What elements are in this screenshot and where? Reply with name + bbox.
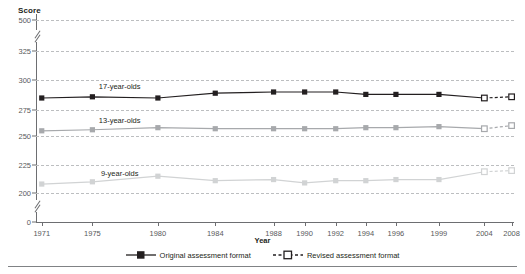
x-tick-label: 1996 <box>388 229 405 238</box>
legend-item[interactable]: Revised assessment format <box>273 250 400 260</box>
series-17-year-olds <box>39 89 514 100</box>
data-point-original <box>436 124 441 129</box>
data-point-original <box>213 91 218 96</box>
line-original <box>42 92 485 98</box>
x-tick-mark <box>484 222 485 226</box>
data-point-original <box>213 126 218 131</box>
x-tick-mark <box>439 222 440 226</box>
data-point-original <box>271 89 276 94</box>
chart-container: Score Year 5003253002752502252000 197119… <box>0 0 525 274</box>
data-point-original <box>363 92 368 97</box>
data-point-revised <box>482 95 488 101</box>
x-tick-mark <box>366 222 367 226</box>
series-label-13-year-olds: 13-year-olds <box>99 115 141 124</box>
data-point-original <box>393 125 398 130</box>
data-point-original <box>436 92 441 97</box>
y-tick-label: 0 <box>27 218 31 227</box>
data-point-original <box>363 125 368 130</box>
data-point-original <box>39 181 44 186</box>
data-point-original <box>333 126 338 131</box>
legend-dashed-icon <box>273 250 303 260</box>
data-point-original <box>155 95 160 100</box>
x-tick-label: 1992 <box>327 229 344 238</box>
data-point-original <box>90 179 95 184</box>
x-tick-mark <box>42 222 43 226</box>
x-tick-label: 1990 <box>296 229 313 238</box>
data-point-revised <box>509 94 515 100</box>
x-tick-label: 1971 <box>33 229 50 238</box>
series-label-17-year-olds: 17-year-olds <box>99 82 141 91</box>
x-tick-label: 1975 <box>84 229 101 238</box>
y-tick-label: 250 <box>18 132 31 141</box>
x-tick-label: 1984 <box>207 229 224 238</box>
x-tick-mark <box>336 222 337 226</box>
x-tick-label: 2008 <box>503 229 520 238</box>
data-point-original <box>302 89 307 94</box>
data-point-original <box>155 174 160 179</box>
line-revised <box>484 97 511 98</box>
series-13-year-olds <box>39 123 514 134</box>
data-point-original <box>436 177 441 182</box>
x-tick-mark <box>396 222 397 226</box>
y-tick-label: 500 <box>18 16 31 25</box>
x-axis-line <box>36 222 514 223</box>
data-point-original <box>271 126 276 131</box>
data-point-revised <box>482 169 488 175</box>
data-point-revised <box>509 168 515 174</box>
legend-item[interactable]: Original assessment format <box>126 250 251 260</box>
data-point-original <box>393 92 398 97</box>
data-point-original <box>90 94 95 99</box>
x-tick-label: 2004 <box>476 229 493 238</box>
line-revised <box>484 126 511 129</box>
data-point-original <box>333 178 338 183</box>
data-point-original <box>363 178 368 183</box>
legend-solid-icon <box>126 250 156 260</box>
x-tick-label: 1980 <box>150 229 167 238</box>
y-tick-label: 325 <box>18 47 31 56</box>
data-point-original <box>302 126 307 131</box>
data-point-original <box>333 89 338 94</box>
x-tick-mark <box>305 222 306 226</box>
data-point-original <box>39 128 44 133</box>
line-revised <box>484 171 511 172</box>
legend-label: Original assessment format <box>160 251 251 260</box>
legend-divider <box>8 266 517 267</box>
plot-area: 5003253002752502252000 19711975198019841… <box>36 14 514 222</box>
data-point-revised <box>509 123 515 129</box>
chart-legend: Original assessment formatRevised assess… <box>0 250 525 260</box>
x-tick-label: 1988 <box>265 229 282 238</box>
x-tick-mark <box>158 222 159 226</box>
x-tick-mark <box>274 222 275 226</box>
line-original <box>42 127 485 131</box>
series-label-9-year-olds: 9-year-olds <box>101 169 139 178</box>
data-point-revised <box>482 126 488 132</box>
x-tick-label: 1994 <box>357 229 374 238</box>
y-tick-label: 275 <box>18 106 31 115</box>
data-point-original <box>302 180 307 185</box>
legend-label: Revised assessment format <box>307 251 400 260</box>
y-tick-label: 225 <box>18 161 31 170</box>
x-tick-mark <box>92 222 93 226</box>
data-point-original <box>271 177 276 182</box>
data-point-original <box>155 125 160 130</box>
y-tick-label: 300 <box>18 76 31 85</box>
x-tick-label: 1999 <box>431 229 448 238</box>
data-point-original <box>393 177 398 182</box>
data-point-original <box>213 178 218 183</box>
y-tick-label: 200 <box>18 189 31 198</box>
data-point-original <box>90 127 95 132</box>
x-tick-mark <box>512 222 513 226</box>
data-point-original <box>39 95 44 100</box>
x-tick-mark <box>215 222 216 226</box>
